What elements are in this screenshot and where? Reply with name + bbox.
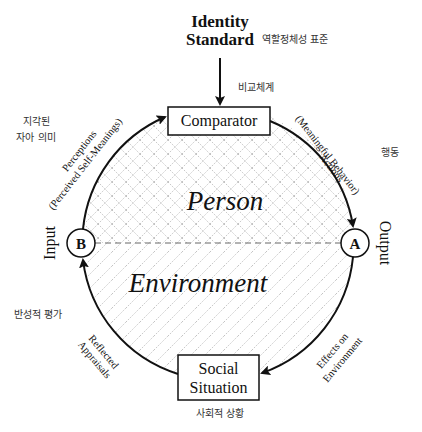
reflected-korean: 반성적 평가 — [14, 309, 62, 320]
output-node-a: A — [341, 229, 369, 257]
identity-standard-korean: 역할정체성 표준 — [262, 34, 328, 45]
node-b-letter: B — [76, 236, 86, 252]
person-label: Person — [186, 186, 264, 216]
input-label: Input — [41, 226, 59, 260]
perceptions-korean-line2: 자아 의미 — [16, 132, 55, 143]
node-a-letter: A — [350, 236, 361, 252]
identity-standard-label-line2: Standard — [186, 30, 255, 49]
output-label: Output — [376, 221, 394, 266]
actions-korean: 행동 — [381, 147, 399, 158]
social-situation-korean: 사회적 상황 — [196, 408, 244, 419]
environment-label: Environment — [128, 268, 269, 298]
social-situation-label-line1: Social — [199, 360, 240, 377]
perceptions-korean-line1: 지각된 — [23, 116, 50, 127]
comparator-box: Comparator — [168, 107, 270, 135]
social-situation-box: Social Situation — [178, 355, 259, 400]
diagram-canvas: Identity Standard 역할정체성 표준 Comparator 비교… — [0, 0, 422, 432]
comparator-korean: 비교체계 — [238, 82, 274, 93]
comparator-label: Comparator — [181, 112, 258, 130]
input-node-b: B — [67, 229, 95, 257]
identity-standard-label-line1: Identity — [191, 12, 249, 31]
identity-control-diagram: Identity Standard 역할정체성 표준 Comparator 비교… — [0, 0, 422, 432]
social-situation-label-line2: Situation — [190, 379, 248, 396]
